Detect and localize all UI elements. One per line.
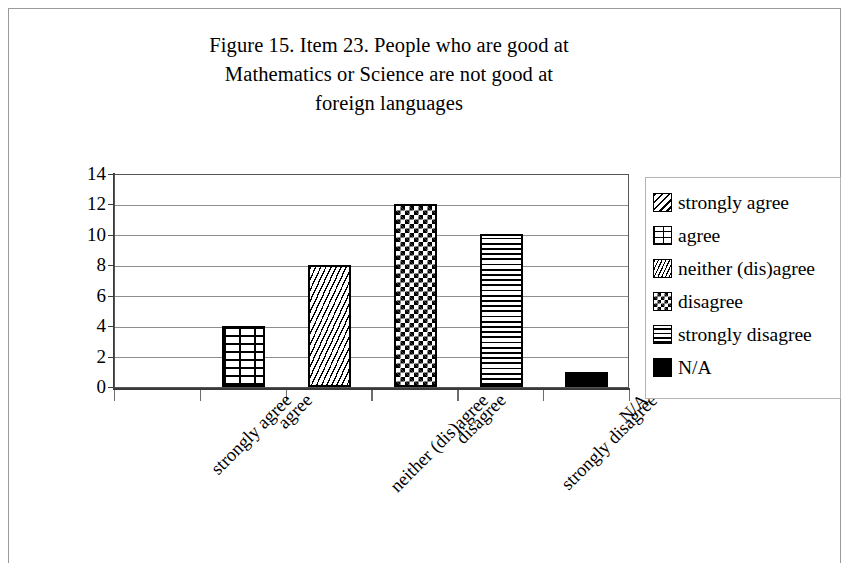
y-axis-labels: 14 12 10 8 6 4 2 0 <box>61 174 106 388</box>
chart-legend: strongly agree agree neither (dis)agree … <box>645 177 841 399</box>
y-tick-label-6: 6 <box>66 286 106 305</box>
legend-item-neither-disagree[interactable]: neither (dis)agree <box>653 252 840 285</box>
bar-strongly-disagree[interactable] <box>480 234 523 387</box>
legend-label-disagree: disagree <box>678 292 743 312</box>
legend-swatch-strongly-agree <box>653 193 672 212</box>
y-tick-label-10: 10 <box>66 225 106 244</box>
bar-agree[interactable] <box>222 326 265 387</box>
x-axis-labels: strongly agree agree neither (dis)agree … <box>114 390 629 550</box>
bar-slot-strongly-agree <box>115 175 201 387</box>
plot-area <box>114 174 629 388</box>
legend-label-neither-disagree: neither (dis)agree <box>678 259 815 279</box>
legend-label-strongly-disagree: strongly disagree <box>678 325 812 345</box>
legend-label-agree: agree <box>678 226 720 246</box>
x-tick-label-neither-disagree: neither (dis)agree <box>386 390 493 497</box>
y-tick-label-2: 2 <box>66 347 106 366</box>
legend-item-agree[interactable]: agree <box>653 219 840 252</box>
bar-slot-agree <box>201 175 287 387</box>
legend-item-strongly-agree[interactable]: strongly agree <box>653 186 840 219</box>
y-tick-label-0: 0 <box>66 377 106 396</box>
legend-swatch-disagree <box>653 292 672 311</box>
figure-page: Figure 15. Item 23. People who are good … <box>8 8 841 563</box>
legend-label-na: N/A <box>678 358 712 378</box>
bar-slot-strongly-disagree <box>458 175 544 387</box>
legend-item-strongly-disagree[interactable]: strongly disagree <box>653 318 840 351</box>
legend-swatch-agree <box>653 226 672 245</box>
figure-title-line-3: foreign languages <box>129 89 649 118</box>
figure-title: Figure 15. Item 23. People who are good … <box>129 31 649 118</box>
bar-slot-neither-disagree <box>287 175 373 387</box>
legend-label-strongly-agree: strongly agree <box>678 193 789 213</box>
y-tick-label-12: 12 <box>66 194 106 213</box>
figure-title-line-2: Mathematics or Science are not good at <box>129 60 649 89</box>
bar-na[interactable] <box>565 372 608 387</box>
bar-disagree[interactable] <box>394 204 437 387</box>
bar-slot-disagree <box>372 175 458 387</box>
legend-swatch-neither-disagree <box>653 259 672 278</box>
bar-slot-na <box>544 175 630 387</box>
bar-neither-disagree[interactable] <box>308 265 351 387</box>
y-tick-label-8: 8 <box>66 255 106 274</box>
legend-item-na[interactable]: N/A <box>653 351 840 384</box>
legend-item-disagree[interactable]: disagree <box>653 285 840 318</box>
y-tick-label-14: 14 <box>66 164 106 183</box>
x-tick-label-strongly-agree: strongly agree <box>207 390 296 479</box>
y-tick-label-4: 4 <box>66 316 106 335</box>
legend-swatch-na <box>653 358 672 377</box>
legend-swatch-strongly-disagree <box>653 325 672 344</box>
figure-title-line-1: Figure 15. Item 23. People who are good … <box>129 31 649 60</box>
